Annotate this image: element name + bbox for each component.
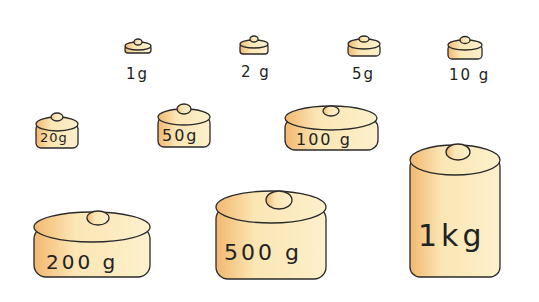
weight-1kg-icon xyxy=(410,144,500,277)
label-1kg: 1kg xyxy=(418,218,486,253)
label-200g: 200 g xyxy=(46,250,118,274)
label-10g: 10 g xyxy=(449,66,490,84)
weights-illustration: 1g 2 g 5g 10 g 20g 50g 100 g 200 g 500 g… xyxy=(0,0,539,302)
weight-10g-icon xyxy=(448,37,482,60)
weight-5g-icon xyxy=(348,36,380,56)
label-5g: 5g xyxy=(352,65,375,83)
label-20g: 20g xyxy=(40,130,68,145)
label-2g: 2 g xyxy=(241,63,271,81)
weight-500g-icon xyxy=(216,191,326,279)
label-100g: 100 g xyxy=(296,130,352,149)
weight-1g-icon xyxy=(125,39,151,53)
label-50g: 50g xyxy=(162,126,199,145)
label-1g: 1g xyxy=(126,65,149,83)
label-500g: 500 g xyxy=(224,240,302,265)
weight-2g-icon xyxy=(240,36,268,54)
